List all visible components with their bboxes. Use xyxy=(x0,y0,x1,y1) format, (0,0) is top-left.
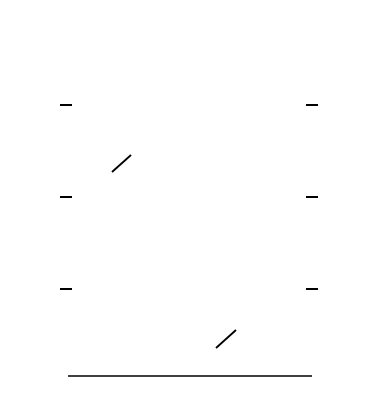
leader-line-middle-60 xyxy=(112,155,131,172)
leader-line-top-20 xyxy=(216,330,236,348)
chart-figure xyxy=(0,0,366,407)
plot-canvas xyxy=(0,0,366,407)
